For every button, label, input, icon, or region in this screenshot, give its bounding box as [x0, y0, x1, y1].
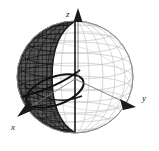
x-axis-label: x [10, 122, 15, 132]
sphere-plot-svg: z y x [0, 0, 159, 151]
sphere-body [6, 15, 144, 140]
z-axis-label: z [65, 9, 70, 19]
y-axis-label: y [141, 93, 146, 103]
z-axis-arrowhead [74, 8, 83, 22]
figure-canvas: z y x [0, 0, 159, 151]
